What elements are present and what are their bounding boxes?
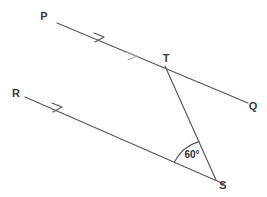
label-s: S bbox=[219, 179, 226, 191]
geometry-diagram: P Q R S T 60° bbox=[0, 0, 267, 197]
ray-rs bbox=[25, 97, 224, 184]
label-t: T bbox=[163, 52, 170, 64]
segment-ts bbox=[165, 66, 216, 180]
ray-pq-group bbox=[57, 23, 248, 103]
label-q: Q bbox=[249, 100, 258, 112]
angle-label-60: 60° bbox=[184, 149, 199, 160]
label-p: P bbox=[40, 10, 47, 22]
label-r: R bbox=[12, 87, 20, 99]
ray-pq bbox=[57, 23, 248, 103]
diagram-canvas: P Q R S T 60° bbox=[0, 0, 267, 197]
ray-rs-group bbox=[25, 97, 224, 184]
